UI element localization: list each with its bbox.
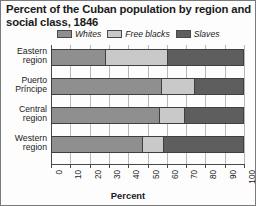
x-axis-tick-label: 90 [229, 170, 238, 179]
x-axis-tick [244, 164, 245, 168]
bar-segment-free-blacks[interactable] [142, 136, 163, 153]
bar-segment-slaves[interactable] [167, 49, 244, 66]
bar-segment-slaves[interactable] [194, 78, 244, 95]
x-axis-tick [70, 164, 71, 168]
x-axis-tick-label: 100 [248, 170, 256, 184]
legend-swatch-icon [107, 30, 122, 38]
x-axis: 0102030405060708090100 [51, 164, 244, 165]
bar-segment-free-blacks[interactable] [161, 78, 194, 95]
legend-item-whites[interactable]: Whites [57, 29, 101, 39]
x-axis-tick-label: 70 [190, 170, 199, 179]
legend-item-label: Free blacks [125, 29, 169, 39]
x-axis-title: Percent [1, 190, 255, 201]
x-axis-tick [51, 164, 52, 168]
bar-segment-slaves[interactable] [163, 136, 244, 153]
bar-segment-whites[interactable] [51, 136, 142, 153]
bar-segment-free-blacks[interactable] [105, 49, 167, 66]
x-axis-tick [109, 164, 110, 168]
bar-segment-free-blacks[interactable] [159, 107, 184, 124]
x-axis-tick-label: 40 [132, 170, 141, 179]
x-axis-tick-label: 30 [113, 170, 122, 179]
x-axis-tick [90, 164, 91, 168]
bar-row[interactable] [51, 136, 244, 153]
bar-segment-whites[interactable] [51, 49, 105, 66]
x-axis-tick-label: 10 [74, 170, 83, 179]
x-axis-tick [128, 164, 129, 168]
category-label: Eastern region [1, 47, 47, 66]
chart-legend: WhitesFree blacksSlaves [57, 28, 253, 40]
x-axis-tick [167, 164, 168, 168]
x-axis-tick [148, 164, 149, 168]
x-axis-tick [186, 164, 187, 168]
legend-item-label: Slaves [194, 29, 220, 39]
bar-row[interactable] [51, 49, 244, 66]
bar-segment-slaves[interactable] [184, 107, 244, 124]
x-axis-tick-label: 80 [209, 170, 218, 179]
chart-title: Percent of the Cuban population by regio… [6, 3, 252, 28]
x-axis-tick-label: 0 [55, 170, 64, 175]
bar-segment-whites[interactable] [51, 78, 161, 95]
category-label: Central region [1, 105, 47, 124]
x-axis-tick [225, 164, 226, 168]
gridline [244, 45, 245, 164]
legend-item-slaves[interactable]: Slaves [176, 29, 220, 39]
plot-area: Eastern regionPuerto PríncipeCentral reg… [51, 45, 244, 164]
x-axis-tick-label: 20 [94, 170, 103, 179]
legend-swatch-icon [176, 30, 191, 38]
bar-segment-whites[interactable] [51, 107, 159, 124]
legend-item-free-blacks[interactable]: Free blacks [107, 29, 169, 39]
bar-row[interactable] [51, 78, 244, 95]
category-label: Western region [1, 134, 47, 153]
legend-swatch-icon [57, 30, 72, 38]
category-label: Puerto Príncipe [1, 76, 47, 95]
legend-item-label: Whites [75, 29, 101, 39]
bar-row[interactable] [51, 107, 244, 124]
x-axis-tick [205, 164, 206, 168]
x-axis-tick-label: 60 [171, 170, 180, 179]
x-axis-tick-label: 50 [152, 170, 161, 179]
chart-figure: Percent of the Cuban population by regio… [0, 0, 256, 206]
